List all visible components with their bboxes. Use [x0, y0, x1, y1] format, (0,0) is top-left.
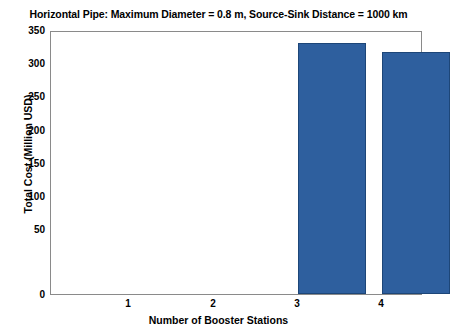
bars-layer	[51, 32, 421, 294]
x-tick-label-3: 3	[277, 298, 317, 309]
y-tick-label-250: 250	[8, 91, 45, 102]
x-tick-label-2: 2	[193, 298, 233, 309]
y-tick-label-200: 200	[8, 125, 45, 136]
plot-area	[50, 31, 422, 295]
bar-category-4	[382, 52, 450, 294]
x-tick-label-4: 4	[361, 298, 401, 309]
y-tick-label-300: 300	[8, 58, 45, 69]
x-tick-label-1: 1	[108, 298, 148, 309]
y-tick-label-100: 100	[8, 191, 45, 202]
y-tick-label-150: 150	[8, 158, 45, 169]
y-tick-label-350: 350	[8, 25, 45, 36]
bar-category-3	[298, 43, 366, 294]
y-tick-label-50: 50	[8, 224, 45, 235]
y-tick-label-0: 0	[8, 289, 45, 300]
x-axis-label: Number of Booster Stations	[0, 314, 437, 326]
chart-title: Horizontal Pipe: Maximum Diameter = 0.8 …	[0, 8, 437, 20]
